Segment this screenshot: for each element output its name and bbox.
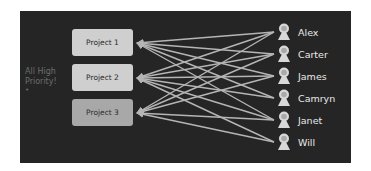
person-name: Camryn	[298, 93, 335, 104]
person-icon	[277, 23, 291, 41]
person-james[interactable]: James	[277, 67, 327, 85]
link-alex-to-project-1	[137, 32, 274, 43]
link-james-to-project-2	[137, 76, 274, 78]
project-box-1[interactable]: Project 1	[72, 29, 133, 56]
project-label: Project 2	[86, 73, 119, 82]
project-box-2[interactable]: Project 2	[72, 64, 133, 91]
person-janet[interactable]: Janet	[277, 111, 322, 129]
project-label: Project 1	[86, 38, 119, 47]
person-name: James	[298, 71, 327, 82]
person-camryn[interactable]: Camryn	[277, 89, 335, 107]
person-carter[interactable]: Carter	[277, 45, 328, 63]
link-carter-to-project-3	[137, 54, 274, 113]
person-will[interactable]: Will	[277, 133, 315, 151]
project-label: Project 3	[86, 108, 119, 117]
person-icon	[277, 67, 291, 85]
link-will-to-project-3	[137, 113, 274, 142]
person-icon	[277, 89, 291, 107]
person-name: Will	[298, 137, 315, 148]
person-icon	[277, 133, 291, 151]
project-box-3[interactable]: Project 3	[72, 99, 133, 126]
person-name: Alex	[298, 27, 318, 38]
person-alex[interactable]: Alex	[277, 23, 318, 41]
link-carter-to-project-2	[137, 54, 274, 78]
person-icon	[277, 45, 291, 63]
person-icon	[277, 111, 291, 129]
person-name: Janet	[298, 115, 322, 126]
person-name: Carter	[298, 49, 328, 60]
